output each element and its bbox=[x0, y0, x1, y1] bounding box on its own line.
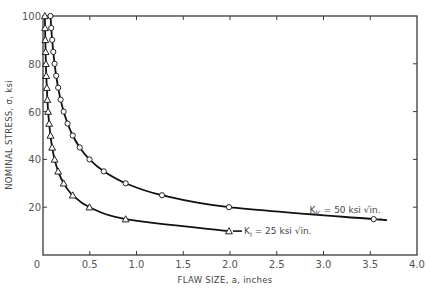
circle-marker bbox=[52, 61, 57, 66]
circle-marker bbox=[123, 181, 128, 186]
triangle-marker bbox=[43, 84, 50, 90]
circle-marker bbox=[87, 157, 92, 162]
triangle-marker bbox=[44, 96, 51, 102]
curve-circle-series bbox=[50, 16, 386, 220]
circle-marker bbox=[51, 49, 56, 54]
circle-marker bbox=[61, 109, 66, 114]
triangle-marker bbox=[49, 144, 56, 150]
series-label: KIc = 50 ksi √in. bbox=[309, 205, 380, 218]
data-markers bbox=[41, 13, 376, 234]
plot-frame bbox=[43, 16, 417, 255]
triangle-marker bbox=[51, 156, 58, 162]
curve-triangle-series bbox=[45, 16, 229, 231]
y-tick-label: 40 bbox=[28, 154, 41, 165]
circle-marker bbox=[101, 169, 106, 174]
triangle-marker bbox=[47, 132, 54, 138]
y-tick-label: 80 bbox=[28, 59, 41, 70]
circle-marker bbox=[65, 121, 70, 126]
plot-border bbox=[43, 16, 417, 255]
y-tick-label: 100 bbox=[22, 11, 41, 22]
circle-marker bbox=[54, 73, 59, 78]
x-tick-label: 0.5 bbox=[82, 259, 98, 270]
x-tick-label: 2.0 bbox=[222, 259, 238, 270]
y-axis-label: NOMINAL STRESS, σ, ksi bbox=[4, 80, 14, 190]
circle-marker bbox=[56, 85, 61, 90]
x-tick-labels: 00.51.01.52.02.53.03.54.0 bbox=[34, 259, 425, 270]
circle-marker bbox=[49, 25, 54, 30]
y-tick-labels: 20406080100 bbox=[22, 11, 41, 213]
circle-marker bbox=[50, 37, 55, 42]
triangle-marker bbox=[46, 120, 53, 126]
x-tick-label: 3.5 bbox=[362, 259, 378, 270]
x-tick-label: 2.5 bbox=[269, 259, 285, 270]
triangle-marker bbox=[55, 168, 62, 174]
x-tick-label: 1.0 bbox=[129, 259, 145, 270]
circle-marker bbox=[159, 193, 164, 198]
y-tick-label: 60 bbox=[28, 107, 41, 118]
axis-ticks bbox=[43, 16, 417, 255]
circle-marker bbox=[58, 97, 63, 102]
x-tick-label: 1.5 bbox=[175, 259, 191, 270]
circle-marker bbox=[70, 133, 75, 138]
x-tick-label: 0 bbox=[34, 259, 40, 270]
x-tick-label: 4.0 bbox=[409, 259, 425, 270]
circle-marker bbox=[226, 205, 231, 210]
circle-marker bbox=[371, 217, 376, 222]
y-tick-label: 20 bbox=[28, 202, 41, 213]
triangle-marker bbox=[43, 72, 50, 78]
circle-marker bbox=[48, 13, 53, 18]
series-label: KI = 25 ksi √in. bbox=[244, 226, 311, 239]
circle-marker bbox=[77, 145, 82, 150]
data-curves bbox=[45, 16, 386, 231]
x-tick-label: 3.0 bbox=[316, 259, 332, 270]
stress-vs-flaw-size-chart: 00.51.01.52.02.53.03.54.0 20406080100 KI… bbox=[0, 0, 431, 292]
x-axis-label: FLAW SIZE, a, inches bbox=[178, 275, 273, 285]
